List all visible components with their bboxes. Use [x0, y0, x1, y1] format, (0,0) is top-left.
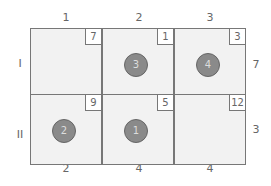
cost-box: 5	[157, 95, 173, 111]
cell-r1-c2: 1 3	[102, 28, 174, 99]
transport-grid: 7 1 3 3 4 9 2 5 1 12	[30, 28, 248, 172]
row-header-1: I	[10, 58, 30, 70]
column-header-3: 3	[200, 12, 220, 24]
allocation-order-circle: 3	[124, 53, 148, 77]
row-header-2: II	[10, 129, 30, 141]
allocation-order-circle: 4	[196, 53, 220, 77]
cost-box: 9	[85, 95, 101, 111]
cost-box: 12	[229, 95, 245, 111]
cell-r2-c3: 12	[174, 94, 246, 165]
allocation-order-circle: 1	[124, 119, 148, 143]
cost-box: 1	[157, 29, 173, 45]
cost-box: 3	[229, 29, 245, 45]
supply-row-1: 7	[246, 59, 266, 71]
column-header-1: 1	[56, 12, 76, 24]
allocation-order-circle: 2	[52, 119, 76, 143]
supply-row-2: 3	[246, 124, 266, 136]
cell-r2-c1: 9 2	[30, 94, 102, 165]
column-header-2: 2	[129, 12, 149, 24]
cell-r2-c2: 5 1	[102, 94, 174, 165]
cell-r1-c1: 7	[30, 28, 102, 99]
cost-box: 7	[85, 29, 101, 45]
cell-r1-c3: 3 4	[174, 28, 246, 99]
